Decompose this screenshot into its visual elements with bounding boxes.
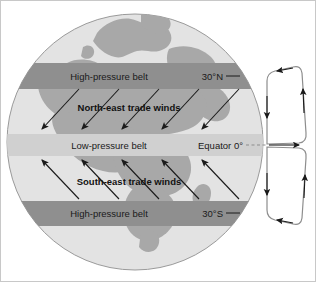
circulation-cell-arrowheads [267, 68, 305, 223]
hadley-cell-north-loop [267, 67, 306, 144]
wind-band-label-north-east: North-east trade winds [78, 102, 181, 113]
belt-label-low-equator: Low-pressure belt [71, 140, 147, 151]
wind-band-label-south-east: South-east trade winds [77, 176, 182, 187]
latitude-label-30s: 30°S [202, 208, 223, 219]
belt-label-high-south: High-pressure belt [70, 208, 148, 219]
latitude-label-30n: 30°N [202, 71, 223, 82]
trade-winds-diagram: High-pressure belt Low-pressure belt Hig… [0, 0, 316, 282]
diagram-canvas: High-pressure belt Low-pressure belt Hig… [1, 1, 315, 281]
latitude-label-equator: Equator 0° [198, 140, 243, 151]
belt-label-high-north: High-pressure belt [70, 71, 148, 82]
hadley-cell-south-loop [267, 147, 306, 224]
